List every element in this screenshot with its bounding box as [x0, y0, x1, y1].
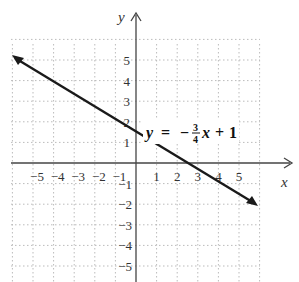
x-tick-label: 5 — [236, 169, 243, 184]
eq-lhs: y — [144, 124, 154, 142]
x-tick-label: −2 — [92, 169, 106, 184]
eq-constant: 1 — [229, 124, 237, 141]
y-tick-label: 4 — [124, 74, 131, 89]
y-tick-label: 3 — [124, 94, 131, 109]
y-tick-label: 5 — [124, 53, 131, 68]
y-tick-label: −1 — [118, 177, 132, 192]
x-tick-label: −5 — [30, 169, 44, 184]
y-axis-label: y — [116, 9, 125, 25]
y-tick-label: −2 — [118, 197, 132, 212]
coordinate-plane: x y −5−4−3−2−11234554321−1−2−3−4−5 y = −… — [0, 0, 299, 282]
x-tick-label: −4 — [51, 169, 65, 184]
eq-var: x — [201, 124, 210, 141]
x-tick-label: 2 — [174, 169, 181, 184]
eq-minus: − — [180, 124, 189, 141]
y-tick-label: 1 — [124, 135, 131, 150]
eq-denominator: 4 — [193, 134, 198, 145]
eq-equals: = — [161, 124, 170, 141]
equation-background — [143, 120, 239, 144]
y-tick-label: −4 — [118, 238, 132, 253]
equation-label: y = − 3 4 x + 1 — [143, 120, 239, 145]
y-tick-label: −3 — [118, 218, 132, 233]
x-tick-label: 1 — [153, 169, 160, 184]
x-axis-label: x — [280, 174, 288, 190]
x-tick-label: −3 — [71, 169, 85, 184]
eq-plus: + — [215, 124, 224, 141]
y-tick-label: −5 — [118, 259, 132, 274]
eq-numerator: 3 — [193, 122, 198, 133]
